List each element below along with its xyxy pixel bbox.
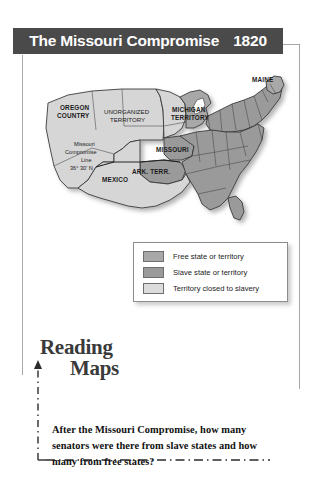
map-label-arkansas-terr: ARK. TERR.: [132, 168, 170, 175]
legend-swatch-free-icon: [143, 251, 164, 262]
legend-label-free: Free state or territory: [173, 252, 244, 261]
map-label-oregon: OREGON: [60, 104, 90, 111]
reading-maps-question: After the Missouri Compromise, how many …: [52, 422, 284, 469]
legend-item-closed: Territory closed to slavery: [134, 280, 287, 296]
map-label-territory-unorg: TERRITORY: [110, 116, 145, 123]
map-label-michigan: MICHIGAN: [172, 106, 206, 113]
title-banner-inner: The Missouri Compromise 1820: [29, 32, 267, 50]
frame-right-rule: [299, 44, 300, 389]
title-year: 1820: [233, 32, 267, 50]
reading-maps-line1: Reading: [40, 337, 210, 358]
legend-swatch-slave-icon: [143, 267, 164, 278]
legend-label-closed: Territory closed to slavery: [173, 284, 259, 293]
title-banner: The Missouri Compromise 1820: [13, 28, 283, 54]
legend-item-slave: Slave state or territory: [134, 264, 287, 280]
map-legend: Free state or territory Slave state or t…: [133, 242, 288, 302]
legend-swatch-closed-icon: [143, 283, 164, 294]
reading-maps-heading: Reading Maps: [40, 337, 210, 380]
map-label-maine: MAINE: [252, 76, 274, 83]
legend-item-free: Free state or territory: [134, 248, 287, 264]
reading-maps-line2: Maps: [70, 358, 210, 379]
map-label-mc-line-3: Line: [81, 157, 92, 163]
map-label-unorganized: UNORGANIZED: [104, 108, 150, 115]
region-southern-slave-states: [180, 124, 264, 210]
map-label-missouri-state: MISSOURI: [156, 146, 189, 153]
us-map-1820: OREGON COUNTRY UNORGANIZED TERRITORY MIC…: [30, 70, 298, 230]
map-label-mc-line-4: 36° 30' N: [70, 165, 93, 171]
page-title: The Missouri Compromise: [29, 32, 219, 50]
frame-left-rule: [22, 55, 23, 375]
map-label-country: COUNTRY: [57, 112, 90, 119]
frame-right-elbow: [282, 44, 300, 45]
map-label-mc-line-2: Compromise: [65, 149, 97, 155]
map-label-mexico: MEXICO: [102, 176, 128, 183]
map-label-territory-mich: TERRITORY: [171, 114, 210, 121]
region-florida: [228, 196, 244, 220]
legend-label-slave: Slave state or territory: [173, 268, 247, 277]
map-label-mc-line-1: Missouri: [74, 141, 95, 147]
